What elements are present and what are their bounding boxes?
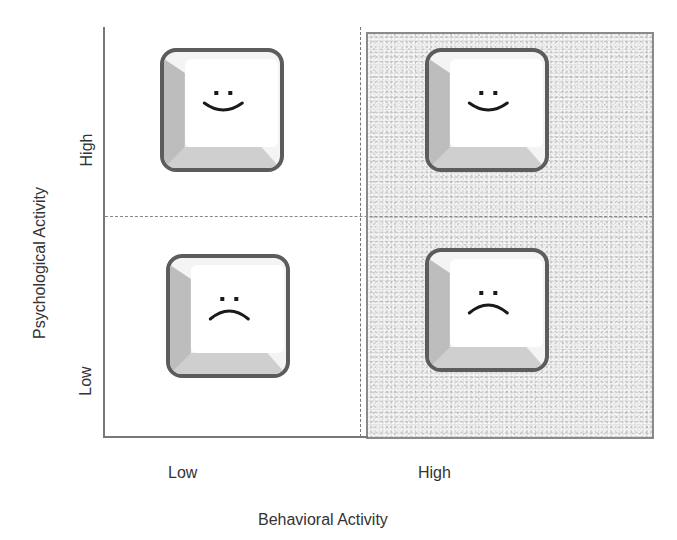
- smile-face-icon: [466, 89, 512, 119]
- smile-face-icon: [201, 89, 247, 119]
- smiley-key-icon: [425, 48, 549, 172]
- horizontal-divider-dashed: [105, 216, 652, 217]
- y-tick-low: Low: [77, 361, 95, 401]
- cropped-caption-fragment: [420, 0, 677, 4]
- vertical-divider-dashed: [360, 27, 361, 437]
- y-tick-high: High: [78, 125, 96, 175]
- x-tick-low: Low: [168, 464, 197, 482]
- x-axis-title: Behavioral Activity: [258, 511, 388, 529]
- x-axis-line: [103, 436, 368, 438]
- frowny-key-icon: [166, 254, 290, 378]
- x-tick-high: High: [418, 464, 451, 482]
- frowny-key-icon: [425, 248, 549, 372]
- frown-face-icon: [207, 295, 253, 325]
- smiley-key-icon: [160, 48, 284, 172]
- frown-face-icon: [466, 289, 512, 319]
- y-axis-line: [103, 27, 105, 438]
- y-axis-title: Psychological Activity: [31, 183, 49, 343]
